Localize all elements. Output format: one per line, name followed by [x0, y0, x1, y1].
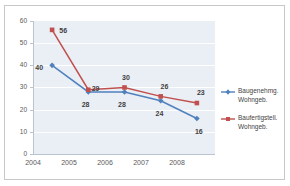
data-point-label: 56 — [59, 26, 67, 33]
y-tick-label: 40 — [5, 61, 27, 68]
x-tick-label: 2004 — [15, 159, 51, 166]
x-tick-label: 2007 — [123, 159, 159, 166]
x-tick-label: 2005 — [51, 159, 87, 166]
legend-marker-square-icon — [221, 116, 235, 122]
data-point-label: 30 — [122, 73, 130, 80]
data-point-marker — [86, 87, 91, 92]
y-tick-label: 10 — [5, 128, 27, 135]
legend-label-line2: Wohngeb. — [238, 122, 287, 131]
data-point-marker — [158, 94, 163, 99]
chart-legend: Baugenehmg. Wohngeb. Baufertigstell. Woh… — [221, 86, 287, 140]
legend-label-line1: Baufertigstell. — [238, 113, 287, 122]
y-tick-label: 50 — [5, 39, 27, 46]
data-point-label: 28 — [118, 100, 126, 107]
data-point-label: 23 — [197, 89, 205, 96]
chart-frame: 60 50 40 30 20 10 0 2004 2005 2006 2007 … — [4, 5, 285, 180]
y-tick-label: 30 — [5, 83, 27, 90]
x-axis-line — [33, 154, 215, 155]
y-tick-label: 0 — [5, 150, 27, 157]
plot-area — [33, 21, 215, 154]
data-point-label: 29 — [92, 84, 100, 91]
data-point-marker — [122, 89, 128, 95]
legend-marker-diamond-icon — [221, 89, 235, 95]
data-point-label: 16 — [195, 127, 203, 134]
y-tick-label: 20 — [5, 106, 27, 113]
data-point-marker — [158, 98, 164, 104]
legend-entry-baugenehmigungen[interactable]: Baugenehmg. Wohngeb. — [221, 86, 287, 104]
data-point-label: 24 — [155, 109, 163, 116]
data-point-marker — [50, 28, 55, 33]
data-point-label: 26 — [160, 83, 168, 90]
data-point-label: 28 — [82, 100, 90, 107]
data-point-marker — [195, 101, 200, 106]
data-point-label: 40 — [35, 64, 43, 71]
data-point-marker — [194, 116, 200, 122]
data-point-marker — [122, 85, 127, 90]
legend-label-line1: Baugenehmg. — [238, 86, 287, 95]
series-plot — [34, 21, 215, 154]
y-tick-label: 60 — [5, 17, 27, 24]
x-tick-label: 2006 — [87, 159, 123, 166]
legend-entry-baufertigstellungen[interactable]: Baufertigstell. Wohngeb. — [221, 113, 287, 131]
x-tick-label: 2008 — [159, 159, 195, 166]
legend-label-line2: Wohngeb. — [238, 95, 287, 104]
